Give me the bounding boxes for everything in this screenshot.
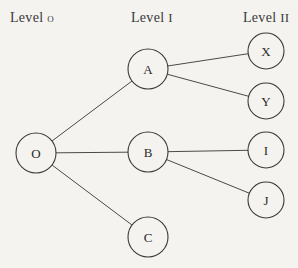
nodes: OABCXYIJ (16, 33, 284, 257)
node-label: B (144, 145, 153, 160)
node-X: X (248, 33, 284, 69)
node-I: I (248, 132, 284, 168)
edge-O-A (52, 81, 132, 141)
node-label: X (261, 44, 271, 59)
edges (52, 54, 249, 225)
node-A: A (128, 49, 168, 89)
edge-O-C (52, 165, 132, 225)
node-label: A (143, 62, 153, 77)
node-B: B (128, 132, 168, 172)
node-Y: Y (248, 83, 284, 119)
edge-B-J (167, 160, 250, 194)
edge-O-B (56, 152, 128, 153)
node-O: O (16, 133, 56, 173)
node-J: J (248, 182, 284, 218)
node-label: J (263, 193, 268, 208)
edge-A-Y (167, 74, 248, 96)
edge-A-X (168, 54, 248, 66)
edge-B-I (168, 150, 248, 151)
node-label: O (31, 146, 40, 161)
tree-diagram: OABCXYIJ (0, 0, 298, 268)
node-label: C (144, 230, 153, 245)
node-C: C (128, 217, 168, 257)
node-label: I (264, 143, 268, 158)
node-label: Y (261, 94, 271, 109)
